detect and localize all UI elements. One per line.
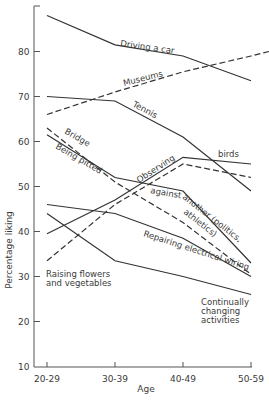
y-tick-40: 40 [18,227,30,237]
x-tick-40-49: 40-49 [170,374,196,384]
y-axis-title: Percentage liking [4,211,14,289]
y-tick-20: 20 [18,317,30,327]
label-driving-a-car: Driving a car [120,38,176,56]
label-museums: Museums [122,68,164,88]
series-line-repairing-electrical-wiring [47,205,251,277]
x-tick-30-39: 30-39 [102,374,128,384]
y-tick-70: 70 [18,92,30,102]
y-tick-50: 50 [18,182,30,192]
x-tick-20-29: 20-29 [34,374,60,384]
x-ticks [47,362,251,367]
x-tick-50-59: 50-59 [238,374,264,384]
label-being-pitted: Being pitted [54,141,104,176]
y-tick-80: 80 [18,47,30,57]
label-birds: birds [218,149,239,159]
y-tick-30: 30 [18,272,30,282]
y-tick-10: 10 [18,362,30,372]
series-line-museums [47,52,269,115]
label-raising-flowers-2: and vegetables [46,278,112,288]
y-tick-60: 60 [18,137,30,147]
x-axis-title: Age [137,384,155,394]
y-ticks [34,6,40,322]
label-against: against [150,185,183,200]
label-continually-3: activities [201,315,240,325]
line-chart: 80 70 60 50 40 30 20 10 20-29 30-39 40-4… [0,0,269,404]
